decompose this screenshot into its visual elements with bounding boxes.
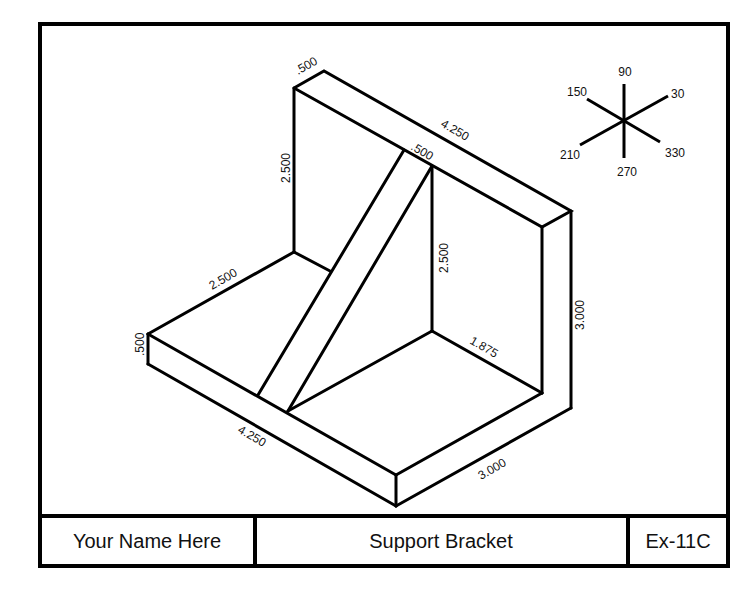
base-front-top-edge: [148, 334, 396, 475]
axis-label-90: 90: [618, 65, 632, 79]
author-name: Your Name Here: [73, 530, 221, 552]
dimension-labels: .500 2.500 4.250 .500 2.500 3.000 2.500 …: [133, 54, 587, 483]
dim-upright-height: 2.500: [279, 153, 293, 183]
base-right-bottom-edge: [396, 408, 571, 506]
axis-label-270: 270: [617, 165, 637, 179]
axis-label-30: 30: [671, 87, 685, 101]
dim-base-inner-depth: 1.875: [468, 333, 501, 360]
dim-base-thickness: .500: [133, 332, 147, 356]
isometric-axes-icon: [580, 84, 668, 158]
axis-label-330: 330: [665, 146, 685, 160]
base-right-top-edge: [396, 393, 542, 475]
dim-base-front-length: 4.250: [236, 422, 269, 449]
rib-base-line: [288, 331, 432, 411]
base-front-bottom-edge: [148, 364, 396, 506]
exercise-id: Ex-11C: [645, 530, 710, 552]
rib-right-edge: [288, 166, 432, 411]
dim-base-left-depth: 2.500: [207, 265, 240, 292]
axis-label-210: 210: [560, 148, 580, 162]
dim-rib-height: 2.500: [437, 243, 451, 273]
drawing-sheet: Your Name Here Support Bracket Ex-11C: [0, 0, 752, 597]
base-left-top-edge: [148, 252, 294, 334]
dim-overall-height: 3.000: [573, 300, 587, 330]
drawing-title: Support Bracket: [369, 530, 513, 552]
inner-corner-left: [294, 252, 330, 271]
axis-label-150: 150: [567, 85, 587, 99]
